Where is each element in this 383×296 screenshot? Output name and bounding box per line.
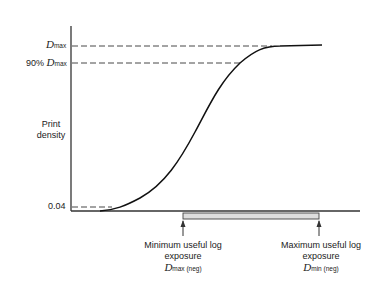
useful-exposure-range-bar xyxy=(183,213,319,219)
max-exposure-label: Maximum useful log exposure Dmin (neg) xyxy=(266,240,376,274)
dmax-label: Dmax xyxy=(46,39,66,51)
d90-label: 90% Dmax xyxy=(26,57,67,69)
y-axis-title: Printdensity xyxy=(34,119,68,141)
min-exposure-label: Minimum useful log exposure Dmax (neg) xyxy=(128,240,238,274)
low-density-label: 0.04 xyxy=(48,201,66,212)
density-curve xyxy=(100,45,322,211)
